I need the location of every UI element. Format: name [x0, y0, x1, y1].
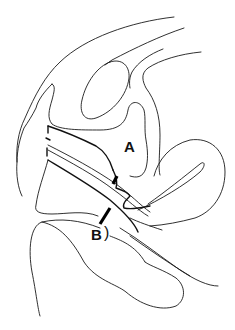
tube-dash-2 — [46, 138, 50, 140]
label-b-bracket: ) — [104, 225, 109, 241]
tube-upper-wall — [48, 126, 113, 170]
tube-inner-wall-2 — [48, 150, 148, 216]
outer-contour-4 — [143, 52, 201, 175]
marker-b-bar — [100, 208, 110, 224]
right-organ-tail — [130, 218, 162, 230]
right-organ-outer — [150, 140, 225, 226]
inner-left-contour — [49, 84, 148, 177]
outer-contour-1 — [17, 17, 174, 162]
oval-structure — [81, 61, 129, 119]
anatomy-drawing — [0, 0, 235, 330]
lower-bulb-right — [42, 222, 184, 308]
lower-left-block — [36, 160, 98, 216]
lower-bulb — [30, 220, 100, 316]
label-a: A — [124, 139, 135, 154]
tube-inner-wall-1 — [48, 145, 150, 212]
lower-bulb-edge — [110, 236, 145, 262]
diagram-canvas: A B ) — [0, 0, 235, 330]
left-jagged-contour — [17, 84, 52, 196]
outer-contour-3 — [130, 49, 164, 88]
a-lobe-lower — [113, 170, 150, 209]
outer-contour-2 — [105, 28, 184, 65]
tube-lower-wall — [48, 160, 138, 232]
diagonal-lower-1 — [120, 228, 218, 286]
label-b: B — [91, 227, 102, 242]
right-organ-inner — [138, 163, 204, 210]
